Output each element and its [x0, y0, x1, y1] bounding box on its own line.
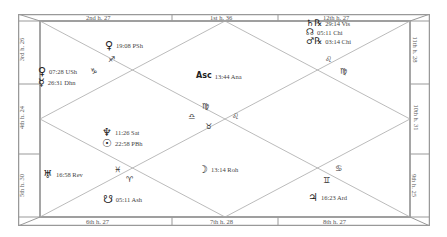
- planet-jupiter: ♃ 16:23 Ard: [308, 192, 347, 203]
- sign-h7: ♉: [205, 122, 212, 131]
- chart-lines: [18, 14, 430, 226]
- house-label-8th: 8th h. 27: [323, 218, 346, 225]
- planet-ketu: ☋ 05:11 Ash: [103, 194, 142, 205]
- house-label-4th: 4th h. 24: [18, 106, 25, 129]
- sign-h1: ♍: [202, 102, 209, 111]
- house-label-10th: 10th h. 31: [413, 104, 420, 130]
- house-label-9th: 9th h. 25: [411, 174, 418, 197]
- sign-h8: ♊: [323, 176, 330, 185]
- uranus-icon: ♅: [43, 169, 53, 180]
- planet-mercury: ☿ 26:31 Dhn: [38, 77, 75, 88]
- house-label-2nd: 2nd h. 27: [86, 14, 110, 21]
- sign-h12: ♌: [325, 55, 332, 64]
- sign-h9: ♋: [335, 164, 342, 173]
- sign-h3: ♑: [90, 67, 97, 76]
- planet-venus-2nd: ♀ 19:08 PSh: [105, 40, 143, 51]
- venus-icon: ♀: [105, 40, 113, 51]
- sign-h5: ♓: [114, 165, 121, 174]
- sign-h11: ♍: [340, 67, 347, 76]
- house-label-6th: 6th h. 27: [86, 218, 109, 225]
- sign-h6: ♈: [126, 175, 133, 184]
- house-label-7th: 7th h. 28: [210, 218, 233, 225]
- mars-retrograde-icon: ♂℞: [306, 37, 322, 46]
- ascendant-icon: Asc: [196, 72, 212, 80]
- ketu-icon: ☋: [103, 194, 113, 205]
- sign-h10: ♌: [232, 112, 239, 121]
- planet-ascendant: Asc 13:44 Ana: [196, 72, 242, 80]
- mercury-icon: ☿: [38, 77, 45, 88]
- sun-icon: ☉: [102, 138, 112, 149]
- rasi-chart: 2nd h. 27 1st h. 36 12th h. 27 6th h. 27…: [18, 14, 430, 226]
- house-label-11th: 11th h. 28: [412, 37, 419, 63]
- sign-h2: ♐: [108, 55, 115, 64]
- moon-icon: ☽: [198, 164, 208, 175]
- house-label-5th: 5th h. 30: [18, 174, 25, 197]
- planet-mars: ♂℞ 03:14 Chi: [306, 37, 351, 46]
- planet-uranus: ♅ 16:58 Rev: [43, 169, 83, 180]
- house-label-1st: 1st h. 36: [210, 14, 232, 21]
- house-label-3rd: 3rd h. 26: [18, 38, 25, 61]
- planet-sun: ☉ 22:58 PBh: [102, 138, 143, 149]
- jupiter-icon: ♃: [308, 192, 318, 203]
- sign-h4: ♎: [188, 112, 195, 121]
- planet-moon: ☽ 13:14 Roh: [198, 164, 238, 175]
